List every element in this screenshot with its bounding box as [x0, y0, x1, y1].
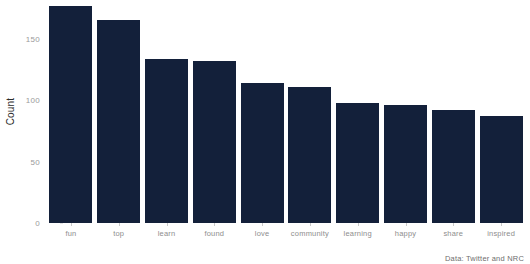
bar [193, 61, 236, 223]
x-tick-mark [167, 223, 168, 226]
x-tick-label: share [443, 229, 463, 238]
y-tick-label: 50 [18, 157, 40, 166]
bar [145, 59, 188, 223]
x-tick-mark [406, 223, 407, 226]
y-axis-title-text: Count [6, 98, 17, 126]
x-tick-label: fun [65, 229, 76, 238]
x-tick-mark [358, 223, 359, 226]
x-tick-mark [71, 223, 72, 226]
x-tick-label: top [113, 229, 124, 238]
x-tick-mark [214, 223, 215, 226]
x-tick-mark [262, 223, 263, 226]
y-tick-label: 150 [18, 35, 40, 44]
x-tick-label: love [255, 229, 270, 238]
bar [480, 116, 523, 223]
x-tick-label: learning [344, 229, 372, 238]
bar-chart: Count 050100150 funtoplearnfoundlovecomm… [0, 0, 530, 264]
chart-caption: Data: Twitter and NRC [445, 254, 524, 263]
bar [97, 20, 140, 223]
bar [384, 105, 427, 223]
bar [432, 110, 475, 223]
plot-area [47, 0, 525, 223]
bar [241, 83, 284, 223]
x-tick-label: inspired [487, 229, 515, 238]
y-axis-ticks: 050100150 [18, 0, 40, 264]
x-tick-mark [501, 223, 502, 226]
x-tick-label: happy [395, 229, 416, 238]
x-axis: funtoplearnfoundlovecommunitylearninghap… [47, 223, 525, 245]
y-tick-label: 0 [18, 219, 40, 228]
x-tick-label: learn [158, 229, 176, 238]
bar [49, 6, 92, 223]
x-tick-label: community [291, 229, 329, 238]
y-tick-label: 100 [18, 96, 40, 105]
x-tick-mark [453, 223, 454, 226]
x-tick-mark [310, 223, 311, 226]
bar [288, 87, 331, 223]
x-tick-mark [119, 223, 120, 226]
bar [336, 103, 379, 223]
x-tick-label: found [204, 229, 224, 238]
